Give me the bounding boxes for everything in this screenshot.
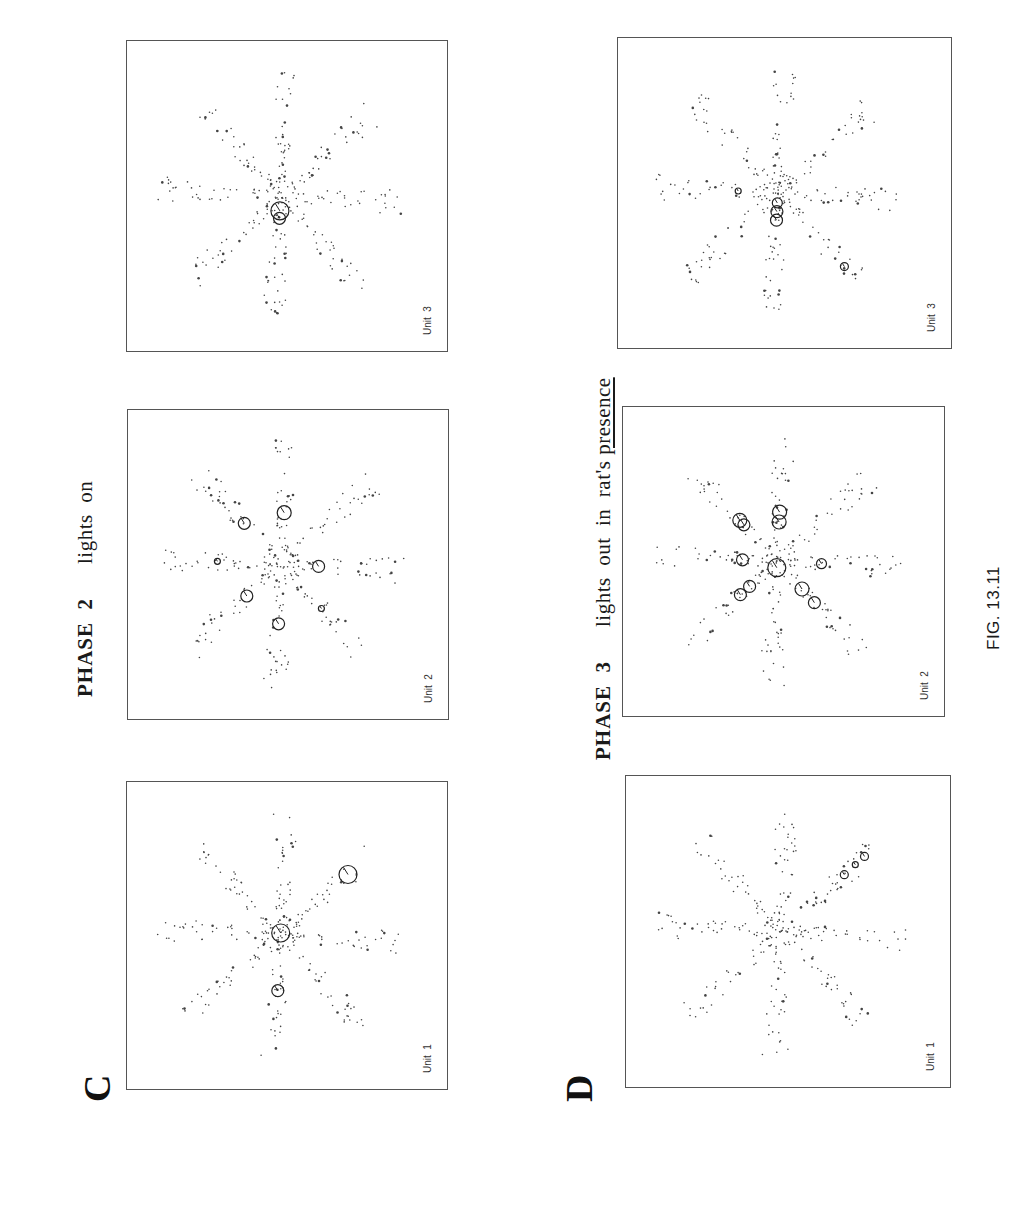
radial-maze-plot: [128, 410, 448, 719]
plot-d-unit-1: Unit 1: [625, 775, 951, 1088]
section-d-emphasis: presence: [591, 377, 615, 454]
firing-field-circle: [771, 214, 783, 226]
unit-label: Unit 2: [919, 671, 930, 700]
plot-c-unit-1: Unit 1: [126, 781, 448, 1090]
firing-field-circle: [735, 188, 741, 194]
radial-maze-plot: [623, 407, 944, 716]
radial-maze-plot: [618, 38, 951, 348]
plot-d-unit-2: Unit 2: [622, 406, 945, 717]
unit-label: Unit 1: [422, 1044, 433, 1073]
section-d-phase: PHASE 3: [591, 661, 615, 760]
section-d-condition: lights out in rat's: [591, 455, 615, 627]
section-d-label: D: [560, 1075, 598, 1102]
unit-label: Unit 2: [423, 674, 434, 703]
unit-label: Unit 3: [926, 303, 937, 332]
figure-page: C PHASE 2lights on Unit 1 Unit 2 Unit 3 …: [0, 0, 1025, 1220]
plot-c-unit-3: Unit 3: [126, 40, 448, 352]
firing-field-circle: [734, 589, 746, 601]
firing-field-circle: [861, 852, 869, 860]
firing-field-circle: [808, 597, 820, 609]
section-c-title: PHASE 2lights on: [48, 481, 123, 720]
plot-d-unit-3: Unit 3: [617, 37, 952, 349]
section-c-label: C: [78, 1075, 116, 1102]
firing-field-circle: [772, 198, 782, 208]
firing-field-circle: [840, 871, 848, 879]
section-c-condition: lights on: [73, 481, 97, 564]
firing-field-circle: [313, 560, 325, 572]
unit-label: Unit 1: [925, 1042, 936, 1071]
figure-caption: FIG. 13.11: [984, 566, 1004, 650]
plot-c-unit-2: Unit 2: [127, 409, 449, 720]
firing-field-circle: [817, 559, 827, 569]
radial-maze-plot: [626, 776, 950, 1087]
firing-field-circle: [277, 506, 291, 520]
radial-maze-plot: [127, 782, 447, 1089]
section-c-phase: PHASE 2: [73, 598, 97, 697]
radial-maze-plot: [127, 41, 447, 351]
unit-label: Unit 3: [422, 306, 433, 335]
firing-field-circle: [852, 862, 858, 868]
